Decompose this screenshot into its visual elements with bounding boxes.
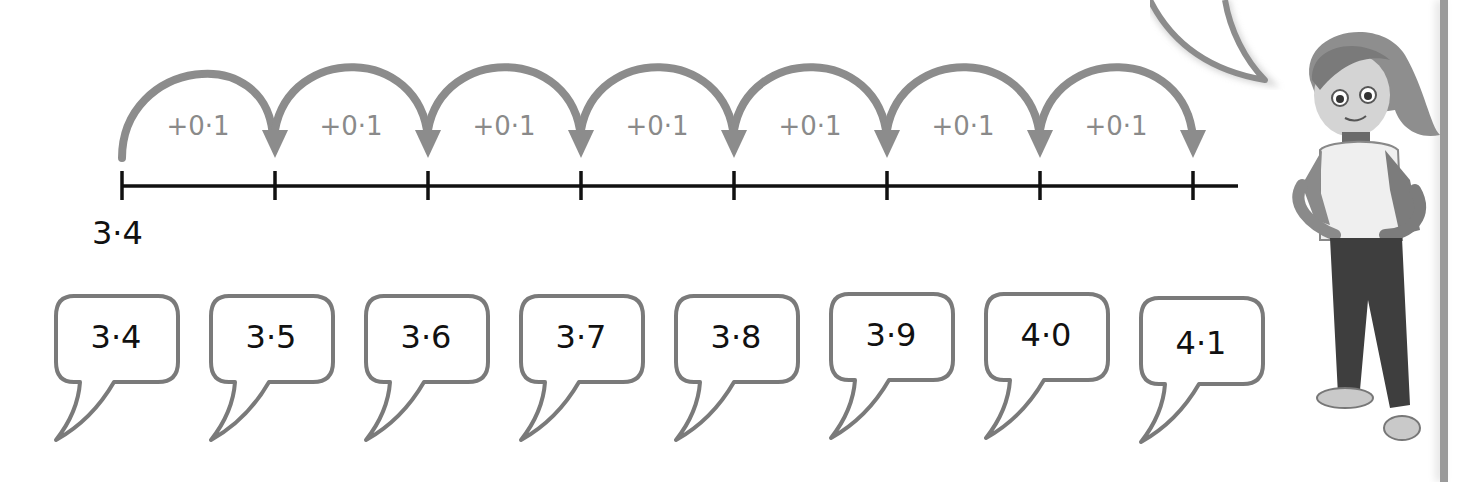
arrowhead-icon <box>262 130 288 158</box>
speech-bubble-icon <box>672 292 804 452</box>
bubble-value: 4·1 <box>1137 324 1265 362</box>
arrowhead-icon <box>415 130 441 158</box>
arrowhead-icon <box>874 130 900 158</box>
speech-bubble-icon <box>362 292 494 452</box>
jump-label-3: +0·1 <box>444 111 564 141</box>
start-value-label: 3·4 <box>92 214 143 252</box>
arrowhead-icon <box>568 130 594 158</box>
speech-bubble-7: 4·0 <box>982 290 1114 450</box>
bubble-value: 3·5 <box>207 318 335 356</box>
speech-bubble-icon <box>982 290 1114 450</box>
speech-bubble-3: 3·6 <box>362 292 494 452</box>
speech-bubble-4: 3·7 <box>517 292 649 452</box>
jump-label-2: +0·1 <box>291 111 411 141</box>
bubble-value: 3·4 <box>52 318 180 356</box>
jump-label-7: +0·1 <box>1056 111 1176 141</box>
speech-bubble-icon <box>517 292 649 452</box>
girl-character-illustration <box>1290 10 1458 482</box>
bubble-value: 3·7 <box>517 318 645 356</box>
speech-bubble-icon <box>52 292 184 452</box>
shoe-left <box>1317 388 1373 408</box>
speech-bubble-6: 3·9 <box>827 290 959 450</box>
jump-label-4: +0·1 <box>597 111 717 141</box>
jump-label-5: +0·1 <box>750 111 870 141</box>
counting-number-line-diagram: +0·1 +0·1 +0·1 +0·1 +0·1 +0·1 +0·1 3·4 3… <box>0 0 1458 482</box>
bubble-value: 3·9 <box>827 316 955 354</box>
shoe-right <box>1384 416 1420 440</box>
trousers <box>1330 238 1410 408</box>
arrowhead-icon <box>1027 130 1053 158</box>
bubble-value: 4·0 <box>982 316 1110 354</box>
speech-bubble-1: 3·4 <box>52 292 184 452</box>
bubble-value: 3·8 <box>672 318 800 356</box>
speech-bubble-5: 3·8 <box>672 292 804 452</box>
bubble-value: 3·6 <box>362 318 490 356</box>
speech-bubble-icon <box>1137 294 1269 454</box>
speech-bubble-2: 3·5 <box>207 292 339 452</box>
arrowhead-icon <box>1180 130 1206 158</box>
jump-label-6: +0·1 <box>903 111 1023 141</box>
speech-bubble-8: 4·1 <box>1137 294 1269 454</box>
arrowhead-icon <box>721 130 747 158</box>
speech-bubble-icon <box>207 292 339 452</box>
jump-label-1: +0·1 <box>138 111 258 141</box>
speech-bubble-icon <box>827 290 959 450</box>
